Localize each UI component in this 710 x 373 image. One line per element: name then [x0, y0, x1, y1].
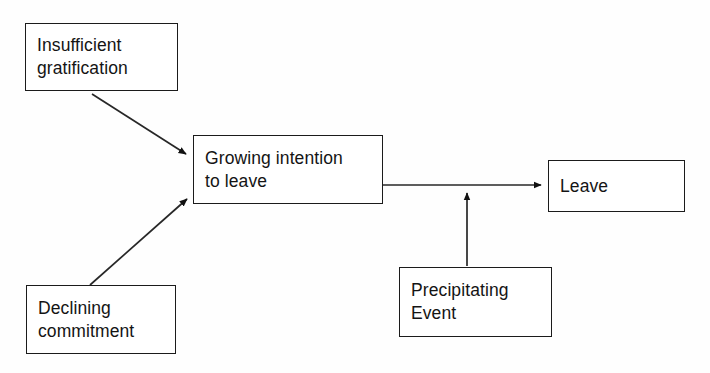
node-growing-intention-to-leave-label: Growing intention to leave — [205, 147, 343, 192]
node-insufficient-gratification-label: Insufficient gratification — [37, 34, 128, 80]
node-declining-commitment-label: Declining commitment — [38, 297, 134, 343]
node-declining-commitment: Declining commitment — [26, 285, 176, 354]
node-leave: Leave — [548, 160, 685, 212]
node-leave-label: Leave — [560, 175, 608, 198]
node-precipitating-event-label: Precipitating Event — [411, 279, 509, 325]
node-growing-intention-to-leave: Growing intention to leave — [193, 135, 383, 204]
edge-gratification-to-intention — [92, 94, 186, 154]
node-precipitating-event: Precipitating Event — [399, 267, 552, 337]
diagram-canvas: Insufficient gratification Growing inten… — [0, 0, 710, 373]
node-insufficient-gratification: Insufficient gratification — [25, 23, 178, 91]
edge-commitment-to-intention — [90, 199, 187, 285]
